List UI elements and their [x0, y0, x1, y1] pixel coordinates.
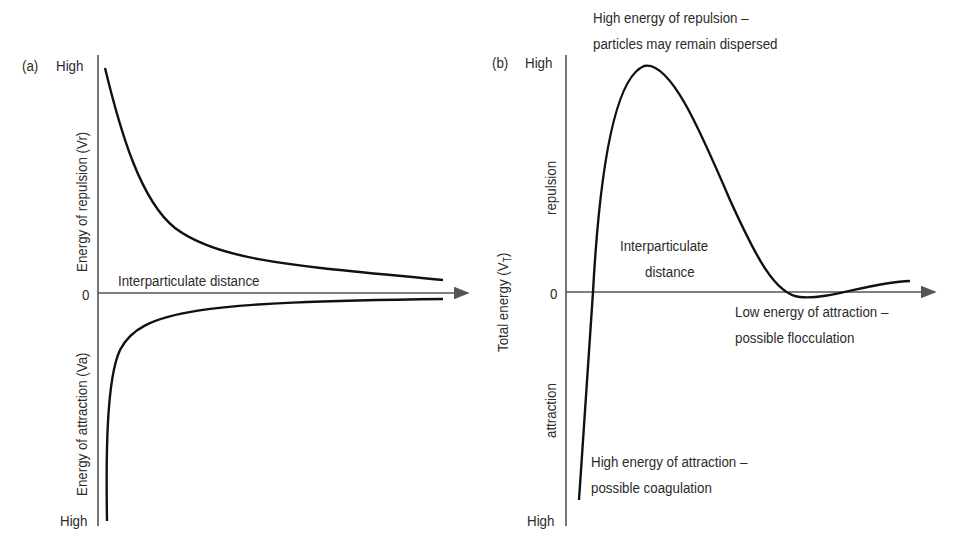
panel-a-repulsion-curve [105, 68, 443, 280]
panel-b-y-label: Total energy (VT) [494, 253, 513, 352]
panel-b-y-bottom-label: High [527, 511, 554, 530]
panel-a-y-label-attraction: Energy of attraction (Va) [73, 353, 91, 496]
panel-a-y-label-repulsion: Energy of repulsion (Vr) [73, 132, 91, 272]
panel-b-attraction-label: attraction [542, 383, 560, 438]
panel-a-zero-label: 0 [82, 285, 89, 304]
panel-a-x-label: Interparticulate distance [118, 271, 260, 290]
panel-b-x-label-line2: distance [645, 262, 695, 281]
annotation-primary-min-line2: possible coagulation [591, 478, 712, 497]
annotation-peak-line2: particles may remain dispersed [593, 34, 777, 53]
annotation-secondary-min-line1: Low energy of attraction – [735, 302, 888, 321]
panel-b-tag: (b) [492, 53, 508, 72]
panel-b-repulsion-label: repulsion [542, 161, 560, 215]
panel-a-attraction-curve [107, 299, 443, 521]
annotation-primary-min-line1: High energy of attraction – [591, 452, 747, 471]
panel-a-y-top-label: High [56, 56, 83, 75]
panel-b-zero-label: 0 [550, 284, 557, 303]
panel-a-tag: (a) [22, 56, 38, 75]
annotation-secondary-min-line2: possible flocculation [735, 328, 854, 347]
panel-b-total-energy-curve [579, 66, 910, 500]
panel-b-y-top-label: High [525, 53, 552, 72]
annotation-peak-line1: High energy of repulsion – [593, 8, 749, 27]
panel-b-x-label-line1: Interparticulate [620, 236, 708, 255]
panel-a-y-bottom-label: High [60, 511, 87, 530]
